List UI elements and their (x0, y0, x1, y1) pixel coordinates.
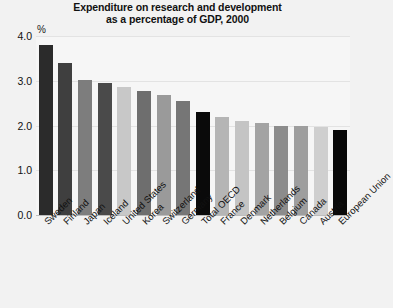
y-axis-tick-label: 1.0 (0, 164, 32, 176)
chart-title-line-1: Expenditure on research and development (0, 1, 355, 13)
y-axis-tick-label: 0.0 (0, 209, 32, 221)
y-axis-tick-label: 4.0 (0, 30, 32, 42)
y-axis-tick-label: 3.0 (0, 75, 32, 87)
bar (39, 45, 53, 215)
bar (58, 63, 72, 215)
bar (157, 95, 171, 215)
x-axis-labels: SwedenFinlandJapanIcelandUnited StatesKo… (36, 217, 355, 308)
chart-title-line-2: as a percentage of GDP, 2000 (0, 13, 355, 25)
bar (78, 80, 92, 215)
bar (98, 83, 112, 215)
y-axis-unit-label: % (37, 24, 46, 35)
chart-title: Expenditure on research and development … (0, 1, 355, 25)
bar (117, 87, 131, 215)
y-axis-tick-label: 2.0 (0, 120, 32, 132)
